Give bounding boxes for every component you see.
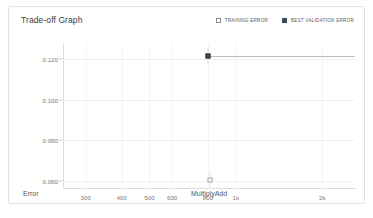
y-tick-label: 0.120 — [43, 56, 63, 63]
x-gridline — [86, 43, 87, 189]
data-point-training-error[interactable] — [207, 177, 212, 182]
legend-label: TRAINING ERROR — [225, 18, 268, 23]
y-axis-line — [63, 43, 64, 189]
y-tick-label: 0.060 — [43, 177, 63, 184]
x-gridline — [172, 43, 173, 189]
filled-square-icon — [282, 18, 287, 23]
page-title: Trade-off Graph — [21, 15, 83, 25]
legend-label: BEST VALIDATION ERROR — [291, 18, 354, 23]
legend-item-training-error[interactable]: TRAINING ERROR — [216, 18, 268, 23]
y-axis-label: Error — [23, 190, 39, 197]
x-gridline — [236, 43, 237, 189]
y-tick-label: 0.100 — [43, 96, 63, 103]
open-square-icon — [216, 18, 221, 23]
x-gridline — [322, 43, 323, 189]
chart-legend: TRAINING ERROR BEST VALIDATION ERROR — [216, 18, 354, 23]
legend-item-best-validation-error[interactable]: BEST VALIDATION ERROR — [282, 18, 354, 23]
x-axis-label: MultiplyAdd — [63, 190, 355, 197]
y-tick-label: 0.080 — [43, 137, 63, 144]
chart-plot-area: 0.1200.1000.0800.0603004005006008001k2k — [63, 43, 355, 189]
trade-off-graph-card: Trade-off Graph TRAINING ERROR BEST VALI… — [8, 6, 365, 204]
data-point-best-validation-error[interactable] — [206, 54, 211, 59]
x-gridline — [122, 43, 123, 189]
series-reference-line — [208, 56, 355, 57]
x-gridline — [149, 43, 150, 189]
